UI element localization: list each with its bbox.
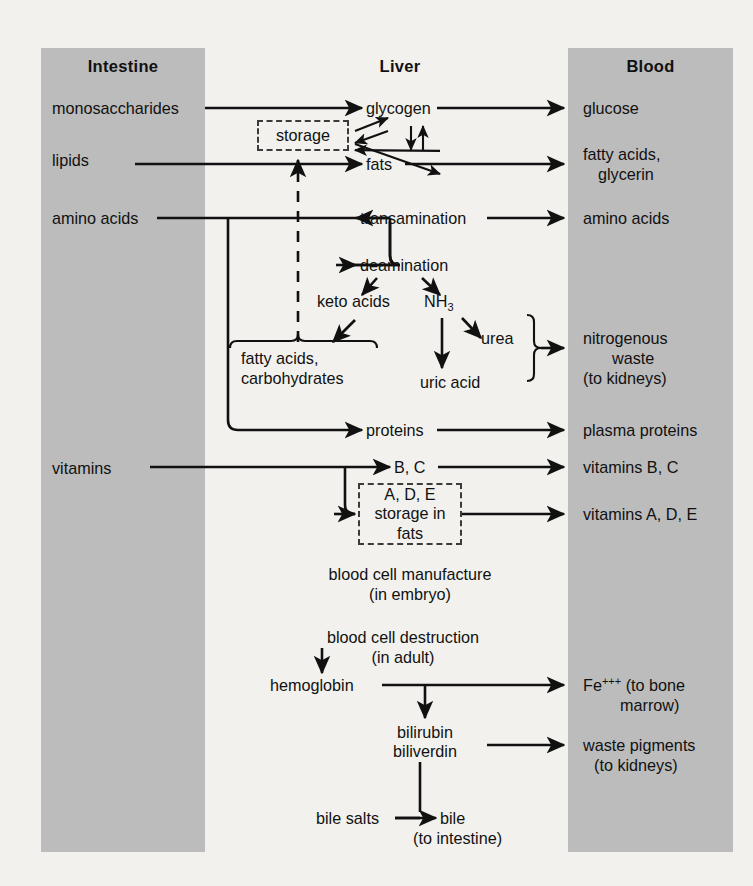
liver-function-diagram: Intestine Liver Blood monosaccharides li…: [0, 0, 753, 886]
label-plasma-proteins: plasma proteins: [583, 421, 697, 441]
label-deamination: deamination: [360, 256, 448, 276]
label-monosaccharides: monosaccharides: [52, 99, 179, 119]
storage-box: storage: [257, 120, 349, 151]
label-transamination: transamination: [360, 209, 466, 229]
label-lipids: lipids: [52, 151, 89, 171]
label-blood-cell-manufacture: blood cell manufacture: [265, 565, 555, 585]
label-ammonia: NH3: [424, 292, 454, 312]
vitamin-storage-line1: A, D, E: [384, 485, 435, 505]
label-keto-acids: keto acids: [317, 292, 390, 312]
arrow-amino-acids-to-proteins: [228, 218, 362, 430]
label-fatty-acids: fatty acids,: [241, 349, 318, 369]
label-blood-cell-destruction: blood cell destruction: [258, 628, 548, 648]
label-waste: waste: [612, 349, 654, 369]
label-hemoglobin: hemoglobin: [270, 676, 354, 696]
label-amino-acids-blood: amino acids: [583, 209, 669, 229]
brace-nitrogenous-waste: [527, 315, 541, 381]
label-uric-acid: uric acid: [420, 373, 480, 393]
label-proteins: proteins: [366, 421, 424, 441]
column-header-liver: Liver: [318, 57, 482, 76]
label-to-kidneys: (to kidneys): [583, 369, 667, 389]
label-marrow: marrow): [620, 696, 679, 716]
label-vitamins-ade-blood: vitamins A, D, E: [583, 505, 697, 525]
label-iron-to-bone: Fe+++ (to bone: [583, 676, 685, 696]
arrow-keto-acids-to-fatty-acids: [333, 320, 355, 342]
label-waste-pigments: waste pigments: [583, 736, 695, 756]
label-amino-acids: amino acids: [52, 209, 138, 229]
vitamin-storage-box: A, D, E storage in fats: [358, 483, 462, 545]
label-nitrogenous: nitrogenous: [583, 329, 668, 349]
label-fats: fats: [366, 155, 392, 175]
label-carbohydrates: carbohydrates: [241, 369, 344, 389]
label-vitamins: vitamins: [52, 459, 111, 479]
vitamin-storage-line3: fats: [397, 524, 423, 544]
label-vitamins-bc-blood: vitamins B, C: [583, 458, 678, 478]
vitamin-storage-line2: storage in: [374, 504, 445, 524]
label-fatty-acids-blood: fatty acids,: [583, 145, 660, 165]
label-biliverdin: biliverdin: [370, 742, 480, 762]
label-in-embryo: (in embryo): [265, 585, 555, 605]
label-glycerin: glycerin: [598, 165, 654, 185]
arrow-ammonia-to-urea: [462, 318, 481, 338]
label-bilirubin: bilirubin: [370, 723, 480, 743]
column-header-blood: Blood: [568, 57, 733, 76]
column-header-intestine: Intestine: [41, 57, 205, 76]
label-bile: bile: [440, 809, 465, 829]
arrow-fats-to-storage: [355, 150, 440, 151]
label-in-adult: (in adult): [258, 648, 548, 668]
line-vitamins-branch: [345, 467, 355, 514]
label-bile-note: (to intestine): [413, 829, 502, 849]
label-vitamins-bc: B, C: [394, 458, 425, 478]
arrow-storage-to-glycogen: [355, 118, 388, 131]
label-urea: urea: [481, 329, 513, 349]
storage-box-label: storage: [276, 126, 330, 146]
label-waste-pigments-note: (to kidneys): [594, 756, 678, 776]
label-bile-salts: bile salts: [316, 809, 379, 829]
label-glycogen: glycogen: [366, 99, 431, 119]
brace-fatty-acids-carbohydrates: [230, 334, 377, 348]
arrow-glycogen-to-storage: [355, 131, 388, 143]
label-glucose: glucose: [583, 99, 639, 119]
